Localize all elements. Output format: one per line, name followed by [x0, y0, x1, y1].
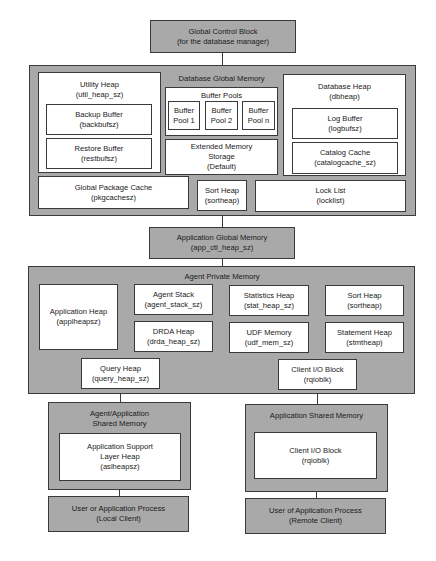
connector-gcb-dbgm [222, 53, 223, 65]
buffer-pool-1-line1: Buffer [174, 106, 194, 116]
connector-agm-apm [222, 259, 223, 266]
shared-client-io-block: Client I/O Block (rqioblk) [254, 432, 377, 479]
local-client-title: User or Application Process [72, 504, 165, 514]
application-heap-title: Application Heap [50, 307, 107, 317]
utility-heap-sub: (util_heap_sz) [76, 90, 124, 100]
agent-stack: Agent Stack (agent_stack_sz) [134, 284, 213, 315]
global-package-cache: Global Package Cache (pkgcachesz) [38, 176, 189, 209]
restore-buffer-title: Restore Buffer [75, 144, 124, 154]
drda-heap-sub: (drda_heap_sz) [147, 337, 200, 347]
log-buffer-title: Log Buffer [328, 114, 363, 124]
agent-private-memory-title: Agent Private Memory [160, 272, 284, 282]
statement-heap: Statement Heap (stmtheap) [325, 322, 404, 353]
statistics-heap: Statistics Heap (stat_heap_sz) [229, 285, 309, 316]
buffer-pools-title: Buffer Pools [201, 88, 242, 101]
udf-memory: UDF Memory (udf_mem_sz) [229, 322, 309, 353]
database-global-memory-title: Database Global Memory [163, 74, 280, 84]
extended-memory-line3: (Default) [207, 162, 236, 172]
drda-heap: DRDA Heap (drda_heap_sz) [134, 321, 213, 352]
buffer-pool-n-line1: Buffer [248, 106, 268, 116]
extended-memory-line1: Extended Memory [191, 142, 253, 152]
statement-heap-sub: (stmtheap) [346, 338, 382, 348]
application-shared-memory-title: Application Shared Memory [270, 405, 363, 421]
buffer-pool-1-line2: Pool 1 [173, 116, 195, 126]
db-sort-heap: Sort Heap (sortheap) [197, 180, 247, 211]
lock-list-sub: (locklist) [317, 196, 345, 206]
catalog-cache: Catalog Cache (catalogcache_sz) [292, 142, 398, 174]
query-heap-title: Query Heap [100, 364, 141, 374]
udf-memory-sub: (udf_mem_sz) [245, 338, 294, 348]
utility-heap-title: Utility Heap [76, 80, 124, 90]
agent-stack-title: Agent Stack [153, 290, 194, 300]
global-control-block-sub: (for the database manager) [177, 37, 269, 47]
buffer-pool-2-line2: Pool 2 [211, 116, 233, 126]
global-control-block-title: Global Control Block [188, 27, 257, 37]
catalog-cache-sub: (catalogcache_sz) [314, 158, 376, 168]
application-heap: Application Heap (applheapsz) [39, 284, 118, 350]
application-global-memory-sub: (app_ctl_heap_sz) [191, 243, 253, 253]
db-sort-heap-sub: (sortheap) [205, 196, 240, 206]
application-global-memory-title: Application Global Memory [177, 233, 268, 243]
statistics-heap-title: Statistics Heap [244, 291, 295, 301]
application-heap-sub: (applheapsz) [57, 317, 101, 327]
extended-memory-line2: Storage [208, 152, 235, 162]
agent-sort-heap: Sort Heap (sortheap) [325, 285, 404, 316]
query-heap: Query Heap (query_heap_sz) [81, 358, 160, 389]
buffer-pool-2-line1: Buffer [211, 106, 231, 116]
statistics-heap-sub: (stat_heap_sz) [244, 301, 294, 311]
backup-buffer-sub: (backbufsz) [79, 120, 118, 130]
restore-buffer-sub: (restbufsz) [81, 154, 117, 164]
agent-sort-heap-sub: (sortheap) [347, 301, 382, 311]
extended-memory-storage: Extended Memory Storage (Default) [165, 139, 278, 175]
statement-heap-title: Statement Heap [337, 328, 392, 338]
local-client-sub: (Local Client) [96, 514, 141, 524]
db-sort-heap-title: Sort Heap [205, 186, 239, 196]
asl-heap-line1: Application Support [87, 442, 153, 452]
backup-buffer: Backup Buffer (backbufsz) [46, 104, 152, 135]
shared-client-io-block-sub: (rqioblk) [302, 456, 329, 466]
buffer-pool-n: Buffer Pool n [242, 101, 275, 130]
remote-client-sub: (Remote Client) [289, 516, 342, 526]
buffer-pool-2: Buffer Pool 2 [205, 101, 238, 130]
agent-stack-sub: (agent_stack_sz) [145, 300, 203, 310]
lock-list-title: Lock List [316, 186, 346, 196]
drda-heap-title: DRDA Heap [153, 327, 194, 337]
agent-app-shared-line1: Agent/Application [90, 409, 149, 419]
buffer-pool-n-line2: Pool n [248, 116, 270, 126]
buffer-pool-1: Buffer Pool 1 [168, 101, 200, 130]
remote-client-process: User of Application Process (Remote Clie… [245, 498, 386, 534]
agent-client-io-block: Client I/O Block (rqioblk) [278, 359, 357, 390]
log-buffer: Log Buffer (logbufsz) [292, 108, 398, 139]
backup-buffer-title: Backup Buffer [75, 110, 123, 120]
catalog-cache-title: Catalog Cache [320, 148, 370, 158]
database-heap-sub: (dbheap) [318, 92, 371, 102]
restore-buffer: Restore Buffer (restbufsz) [46, 138, 152, 169]
agent-sort-heap-title: Sort Heap [347, 291, 381, 301]
database-heap-title: Database Heap [318, 82, 371, 92]
agent-client-io-block-title: Client I/O Block [291, 365, 343, 375]
application-support-layer-heap: Application Support Layer Heap (aslheaps… [59, 433, 181, 481]
lock-list: Lock List (locklist) [255, 180, 406, 212]
agent-client-io-block-sub: (rqioblk) [304, 375, 331, 385]
global-control-block: Global Control Block (for the database m… [150, 20, 296, 53]
shared-client-io-block-title: Client I/O Block [289, 446, 341, 456]
udf-memory-title: UDF Memory [246, 328, 291, 338]
remote-client-title: User of Application Process [269, 506, 362, 516]
log-buffer-sub: (logbufsz) [328, 124, 361, 134]
local-client-process: User or Application Process (Local Clien… [48, 496, 189, 532]
global-package-cache-sub: (pkgcachesz) [91, 193, 136, 203]
global-package-cache-title: Global Package Cache [75, 183, 153, 193]
query-heap-sub: (query_heap_sz) [92, 374, 149, 384]
connector-dbgm-agm [222, 216, 223, 227]
agent-app-shared-line2: Shared Memory [90, 419, 149, 429]
asl-heap-line3: (aslheapsz) [100, 462, 139, 472]
application-global-memory: Application Global Memory (app_ctl_heap_… [149, 227, 295, 259]
asl-heap-line2: Layer Heap [100, 452, 139, 462]
